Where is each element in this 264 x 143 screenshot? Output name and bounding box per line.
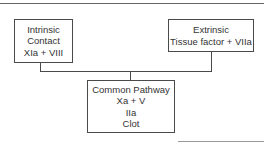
common-result: Clot: [123, 118, 140, 130]
common-pathway-box: Common Pathway Xa + V IIa Clot: [87, 80, 175, 133]
bottom-rule: [178, 141, 264, 142]
extrinsic-pathway-box: Extrinsic Tissue factor + VIIa: [168, 19, 254, 52]
common-factors: Xa + V: [117, 95, 146, 107]
intrinsic-pathway-box: Intrinsic Contact XIa + VIII: [14, 19, 73, 63]
common-label: Common Pathway: [92, 84, 170, 96]
intrinsic-label: Intrinsic: [27, 24, 60, 36]
common-thrombin: IIa: [126, 107, 137, 119]
merge-connector: [40, 71, 212, 72]
extrinsic-factors: Tissue factor + VIIa: [170, 36, 252, 48]
intrinsic-factors: XIa + VIII: [24, 47, 63, 59]
intrinsic-trigger: Contact: [27, 35, 60, 47]
top-rule: [0, 3, 264, 4]
extrinsic-label: Extrinsic: [193, 24, 229, 36]
extrinsic-connector-down: [211, 51, 212, 72]
